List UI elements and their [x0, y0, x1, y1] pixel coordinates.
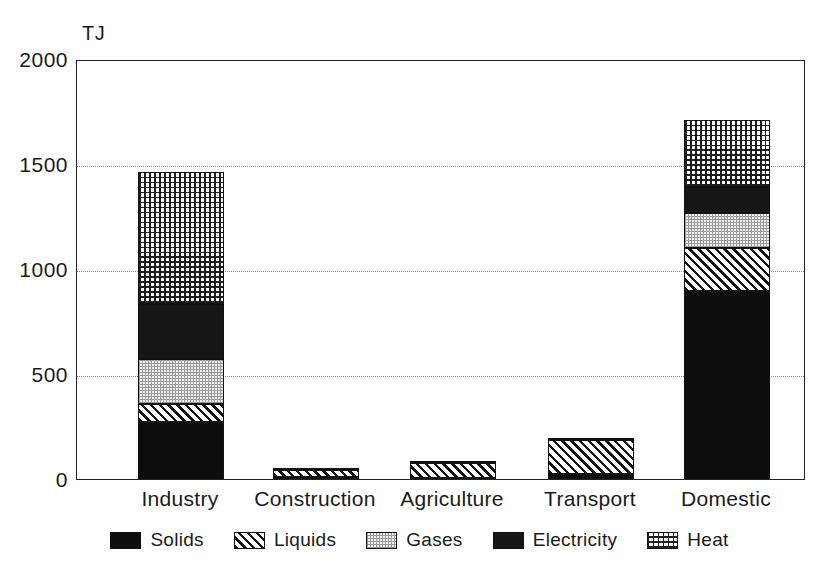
bar-segment-agriculture-liquids: [410, 463, 496, 478]
bar-segment-domestic-heat: [684, 120, 770, 187]
bar-segment-industry-solids: [138, 422, 224, 479]
y-tick-label-0: 0: [6, 468, 68, 492]
y-tick-label-500: 500: [6, 363, 68, 387]
legend-label: Heat: [687, 529, 728, 551]
swatch-cross-hatch-icon: [647, 532, 678, 549]
bar-segment-industry-heat: [138, 172, 224, 303]
legend-item-electricity[interactable]: Electricity: [493, 529, 618, 551]
bar-agriculture: [410, 59, 496, 479]
bar-construction: [273, 59, 359, 479]
bar-domestic: [684, 59, 770, 479]
x-axis-label-domestic: Domestic: [636, 487, 816, 511]
stacked-bar-chart: TJ 0500100015002000 IndustryConstruction…: [0, 0, 839, 585]
bar-segment-transport-solids: [548, 474, 634, 479]
legend-label: Electricity: [533, 529, 618, 551]
bar-segment-construction-solids: [273, 477, 359, 479]
bar-segment-domestic-gases: [684, 213, 770, 248]
bar-industry: [138, 59, 224, 479]
bar-segment-agriculture-electricity: [410, 461, 496, 463]
bar-transport: [548, 59, 634, 479]
plot-area: [76, 60, 805, 480]
legend-label: Gases: [406, 529, 462, 551]
legend-label: Liquids: [274, 529, 336, 551]
legend-item-heat[interactable]: Heat: [647, 529, 728, 551]
legend-item-gases[interactable]: Gases: [366, 529, 462, 551]
swatch-solid-dark-icon: [493, 532, 524, 549]
y-tick-label-2000: 2000: [6, 48, 68, 72]
bar-segment-construction-liquids: [273, 470, 359, 477]
bar-segment-construction-electricity: [273, 468, 359, 470]
swatch-fine-dots-icon: [366, 532, 397, 549]
bar-segment-domestic-solids: [684, 291, 770, 479]
swatch-diagonal-hatch-icon: [234, 532, 265, 549]
bar-segment-domestic-liquids: [684, 248, 770, 291]
legend-item-solids[interactable]: Solids: [110, 529, 204, 551]
chart-legend: SolidsLiquidsGasesElectricityHeat: [0, 523, 839, 557]
legend-item-liquids[interactable]: Liquids: [234, 529, 336, 551]
y-tick-label-1500: 1500: [6, 153, 68, 177]
bar-segment-domestic-electricity: [684, 187, 770, 213]
bar-segment-transport-liquids: [548, 440, 634, 474]
bar-segment-industry-liquids: [138, 404, 224, 422]
swatch-solid-black-icon: [110, 532, 141, 549]
bar-segment-industry-gases: [138, 359, 224, 404]
y-axis-unit-label: TJ: [82, 22, 105, 45]
bar-segment-transport-electricity: [548, 438, 634, 440]
y-tick-label-1000: 1000: [6, 258, 68, 282]
legend-label: Solids: [150, 529, 204, 551]
bar-segment-industry-electricity: [138, 304, 224, 360]
